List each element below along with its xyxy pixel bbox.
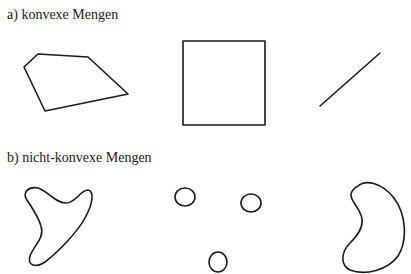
circle-1 <box>175 188 195 206</box>
kidney-shape <box>343 183 405 273</box>
circle-3 <box>209 252 227 272</box>
circle-2 <box>241 194 261 212</box>
convex-pentagon <box>24 54 128 111</box>
line-segment <box>320 53 380 106</box>
boomerang-blob <box>25 188 92 266</box>
square <box>183 41 265 125</box>
convex-sets-diagram <box>0 0 411 274</box>
